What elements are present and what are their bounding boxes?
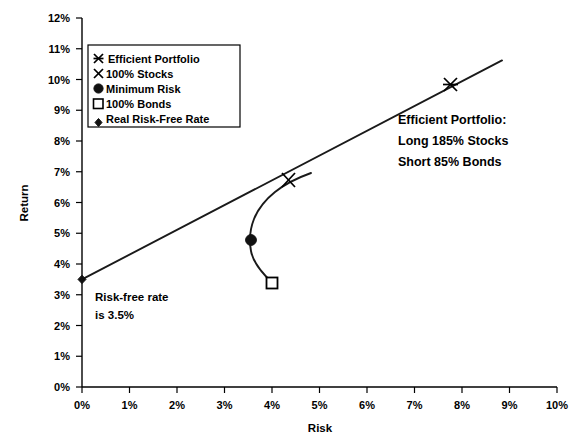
efficient-portfolio-callout: Efficient Portfolio: Long 185% Stocks Sh… xyxy=(398,113,508,169)
y-tick-label: 2% xyxy=(54,320,70,332)
efficient-frontier-curve xyxy=(250,173,311,282)
x-tick-label: 0% xyxy=(74,399,90,411)
x-tick-label: 4% xyxy=(264,399,280,411)
callout-line: Short 85% Bonds xyxy=(398,155,502,169)
legend-item-label: 100% Bonds xyxy=(106,98,171,110)
legend-item-label: 100% Stocks xyxy=(106,68,173,80)
efficient-frontier-chart: 12% 11% 10% 9% 8% 7% 6% 5% 4% 3% 2% 1% 0… xyxy=(0,0,580,444)
callout-line: Efficient Portfolio: xyxy=(398,113,506,127)
x-tick-label: 10% xyxy=(546,399,568,411)
marker-efficient-portfolio xyxy=(443,78,458,91)
y-tick-label: 9% xyxy=(54,104,70,116)
y-tick-label: 10% xyxy=(48,74,70,86)
y-tick-label: 0% xyxy=(54,381,70,393)
marker-100-percent-bonds xyxy=(267,278,278,289)
legend-item-real-risk-free-rate[interactable]: Real Risk-Free Rate xyxy=(95,113,209,127)
legend-item-label: Real Risk-Free Rate xyxy=(106,113,209,125)
callout-line: Risk-free rate xyxy=(95,291,169,303)
filled-circle-icon xyxy=(94,84,103,93)
x-tick-label: 7% xyxy=(407,399,423,411)
y-tick-label: 7% xyxy=(54,166,70,178)
callout-line: Long 185% Stocks xyxy=(398,134,508,148)
legend-item-efficient-portfolio[interactable]: Efficient Portfolio xyxy=(94,53,200,65)
legend-item-100-percent-bonds[interactable]: 100% Bonds xyxy=(94,98,172,110)
y-tick-label: 4% xyxy=(54,258,70,270)
risk-free-rate-callout: Risk-free rate is 3.5% xyxy=(95,291,169,321)
legend-item-minimum-risk[interactable]: Minimum Risk xyxy=(94,83,182,95)
y-tick-label: 11% xyxy=(49,43,71,55)
x-axis-title: Risk xyxy=(308,422,333,434)
x-tick-label: 2% xyxy=(169,399,185,411)
y-tick-marks xyxy=(76,18,82,387)
x-tick-labels: 0% 1% 2% 3% 4% 5% 6% 7% 8% 9% 10% xyxy=(74,399,568,411)
x-tick-label: 5% xyxy=(312,399,328,411)
x-tick-label: 9% xyxy=(502,399,518,411)
y-tick-label: 5% xyxy=(54,227,70,239)
legend-item-label: Efficient Portfolio xyxy=(108,53,200,65)
y-tick-label: 3% xyxy=(54,289,70,301)
y-tick-label: 12% xyxy=(48,12,70,24)
open-square-icon xyxy=(94,99,104,109)
marker-minimum-risk xyxy=(246,235,257,246)
y-axis-title: Return xyxy=(18,184,30,221)
y-tick-label: 8% xyxy=(54,135,70,147)
x-tick-label: 6% xyxy=(359,399,375,411)
x-tick-marks xyxy=(82,387,557,393)
legend-item-100-percent-stocks[interactable]: 100% Stocks xyxy=(94,68,173,80)
y-tick-label: 1% xyxy=(54,350,70,362)
y-tick-label: 6% xyxy=(54,197,70,209)
y-tick-labels: 12% 11% 10% 9% 8% 7% 6% 5% 4% 3% 2% 1% 0… xyxy=(48,12,70,393)
x-tick-label: 3% xyxy=(217,399,233,411)
x-tick-label: 8% xyxy=(454,399,470,411)
callout-line: is 3.5% xyxy=(95,309,134,321)
legend-item-label: Minimum Risk xyxy=(106,83,181,95)
marker-real-risk-free-rate xyxy=(78,275,86,283)
chart-page: 12% 11% 10% 9% 8% 7% 6% 5% 4% 3% 2% 1% 0… xyxy=(0,0,580,444)
legend: Efficient Portfolio 100% Stocks Minimum … xyxy=(88,45,240,127)
x-tick-label: 1% xyxy=(122,399,138,411)
